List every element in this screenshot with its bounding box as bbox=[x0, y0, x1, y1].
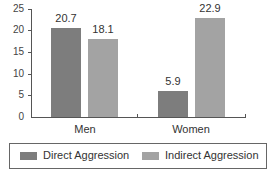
y-tick-label: 0 bbox=[4, 112, 24, 122]
value-label: 5.9 bbox=[153, 75, 193, 87]
y-tick bbox=[28, 52, 32, 53]
y-tick-label: 25 bbox=[4, 4, 24, 14]
bar-women-indirect bbox=[195, 18, 225, 117]
value-label: 18.1 bbox=[83, 23, 123, 35]
y-tick bbox=[28, 30, 32, 31]
category-label-men: Men bbox=[45, 123, 125, 135]
bar-women-direct bbox=[158, 91, 188, 117]
y-axis bbox=[31, 9, 32, 118]
legend: Direct Aggression Indirect Aggression bbox=[9, 143, 267, 169]
y-tick bbox=[28, 95, 32, 96]
legend-swatch-indirect bbox=[142, 152, 159, 160]
y-tick bbox=[28, 74, 32, 75]
y-tick-label: 15 bbox=[4, 47, 24, 57]
x-tick bbox=[245, 114, 246, 118]
x-axis bbox=[31, 117, 246, 118]
y-tick-label: 5 bbox=[4, 90, 24, 100]
y-tick-label: 10 bbox=[4, 69, 24, 79]
y-tick-label: 20 bbox=[4, 25, 24, 35]
value-label: 20.7 bbox=[46, 12, 86, 24]
x-tick bbox=[137, 114, 138, 118]
legend-swatch-direct bbox=[20, 152, 37, 160]
legend-label-direct: Direct Aggression bbox=[43, 149, 129, 161]
category-label-women: Women bbox=[151, 123, 231, 135]
y-tick bbox=[28, 9, 32, 10]
bar-men-direct bbox=[51, 28, 81, 117]
bar-men-indirect bbox=[88, 39, 118, 117]
legend-label-indirect: Indirect Aggression bbox=[165, 149, 259, 161]
value-label: 22.9 bbox=[190, 2, 230, 14]
